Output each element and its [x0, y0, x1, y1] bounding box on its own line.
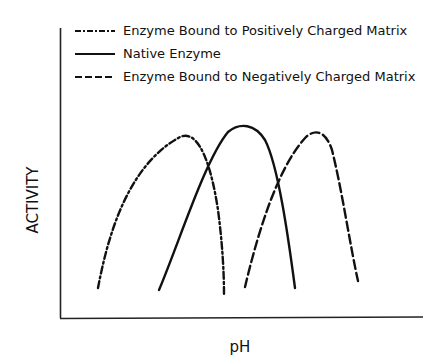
legend: Enzyme Bound to Positively Charged Matri…	[75, 23, 416, 84]
legend-label: Enzyme Bound to Negatively Charged Matri…	[123, 69, 416, 84]
x-axis	[60, 317, 423, 319]
legend-label: Native Enzyme	[123, 46, 221, 61]
series-negative-matrix	[245, 132, 358, 287]
x-axis-label: pH	[230, 338, 251, 356]
y-axis-label: ACTIVITY	[24, 166, 42, 234]
legend-label: Enzyme Bound to Positively Charged Matri…	[123, 23, 408, 38]
series-native-enzyme	[159, 126, 295, 290]
legend-item-positive: Enzyme Bound to Positively Charged Matri…	[75, 23, 408, 38]
chart: Enzyme Bound to Positively Charged Matri…	[0, 0, 442, 364]
series-positive-matrix	[98, 136, 224, 294]
legend-item-native: Native Enzyme	[75, 46, 221, 61]
plot-area	[98, 126, 358, 294]
legend-item-negative: Enzyme Bound to Negatively Charged Matri…	[75, 69, 416, 84]
